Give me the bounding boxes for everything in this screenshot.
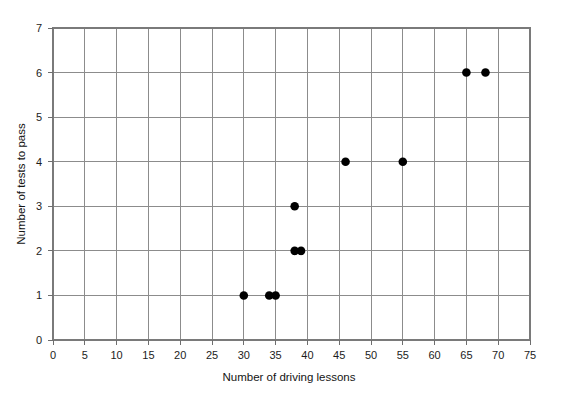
x-tick-label: 55 xyxy=(397,349,409,361)
chart-canvas: 051015202530354045505560657075 01234567 … xyxy=(0,0,564,401)
x-tick-label: 50 xyxy=(365,349,377,361)
data-point xyxy=(271,291,280,300)
y-tick-label: 3 xyxy=(36,200,42,212)
x-tick-label: 40 xyxy=(301,349,313,361)
data-point xyxy=(462,68,471,77)
y-tick-label: 7 xyxy=(36,22,42,34)
x-tick-label: 25 xyxy=(206,349,218,361)
x-tick-label: 60 xyxy=(428,349,440,361)
x-tick-label: 45 xyxy=(333,349,345,361)
x-tick-label: 75 xyxy=(524,349,536,361)
x-tick-label: 30 xyxy=(238,349,250,361)
x-tick-label: 15 xyxy=(142,349,154,361)
y-axis-title: Number of tests to pass xyxy=(15,123,27,245)
x-tick-label: 65 xyxy=(460,349,472,361)
data-point xyxy=(341,157,350,166)
x-tick-label: 0 xyxy=(50,349,56,361)
data-point xyxy=(481,68,490,77)
y-tick-label: 2 xyxy=(36,245,42,257)
data-point xyxy=(297,247,306,256)
scatter-chart: 051015202530354045505560657075 01234567 … xyxy=(0,0,564,401)
y-tick-label: 6 xyxy=(36,67,42,79)
x-tick-label: 20 xyxy=(174,349,186,361)
y-tick-label: 4 xyxy=(36,156,42,168)
data-point xyxy=(240,291,249,300)
data-point xyxy=(399,157,408,166)
x-axis-title: Number of driving lessons xyxy=(223,371,356,383)
y-tick-label: 0 xyxy=(36,334,42,346)
x-tick-label: 35 xyxy=(269,349,281,361)
data-point xyxy=(290,202,299,211)
y-tick-label: 1 xyxy=(36,289,42,301)
x-tick-label: 70 xyxy=(492,349,504,361)
y-tick-label: 5 xyxy=(36,111,42,123)
x-tick-label: 10 xyxy=(110,349,122,361)
x-tick-label: 5 xyxy=(82,349,88,361)
